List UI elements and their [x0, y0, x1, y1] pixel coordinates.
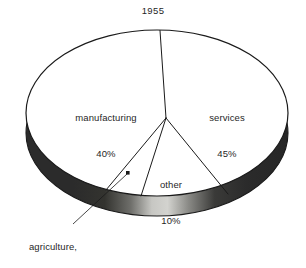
slice-label-other: other 10%	[140, 155, 202, 251]
slice-label-services-name: services	[188, 112, 266, 124]
slice-label-other-name: other	[140, 179, 202, 191]
pie-chart-figure: 1955	[0, 0, 306, 268]
slice-label-other-value: 10%	[140, 215, 202, 227]
slice-label-agriculture: agriculture, forestry and fishing 5%	[4, 214, 102, 268]
slice-label-manufacturing-name: manufacturing	[56, 112, 156, 124]
slice-label-agriculture-line1: agriculture,	[4, 240, 102, 253]
